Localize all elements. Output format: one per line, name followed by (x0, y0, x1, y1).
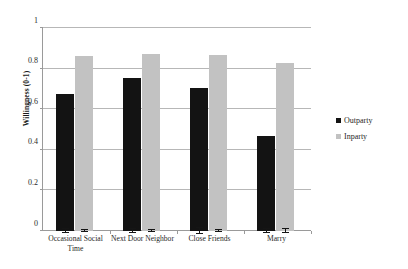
legend-item[interactable]: Inparty (336, 132, 406, 141)
x-category-label: Marry (243, 234, 310, 244)
y-tick-label: 0.6 (28, 96, 38, 105)
y-tick-label: 0.2 (28, 177, 38, 186)
bar-outparty (190, 88, 208, 231)
bar-outparty (257, 136, 275, 231)
bars-layer (43, 28, 311, 231)
x-tick-mark (311, 231, 312, 234)
bar-inparty (276, 63, 294, 231)
error-bar-cap-top (196, 227, 203, 228)
bar-outparty (56, 94, 74, 231)
y-tick-label: 0 (34, 218, 38, 227)
error-bar-cap-bottom (282, 232, 289, 233)
chart-legend: OutpartyInparty (336, 116, 406, 148)
error-bar-cap-bottom (215, 231, 222, 232)
y-tick-label: 0.8 (28, 56, 38, 65)
error-bar-cap-top (62, 228, 69, 229)
y-tick-label: 0.4 (28, 137, 38, 146)
legend-swatch-icon (336, 118, 341, 123)
x-category-label: Next Door Neighbor (109, 234, 176, 244)
legend-swatch-icon (336, 134, 341, 139)
error-bar-cap-top (263, 228, 270, 229)
error-bar-cap-top (129, 228, 136, 229)
bar-group (56, 28, 93, 231)
legend-label: Inparty (344, 132, 367, 141)
x-category-label: Close Friends (176, 234, 243, 244)
bar-outparty (123, 78, 141, 231)
bar-inparty (75, 56, 93, 231)
bar-group (190, 28, 227, 231)
error-bar-cap-bottom (129, 232, 136, 233)
bar-inparty (209, 55, 227, 231)
y-tick-label: 1 (34, 15, 38, 24)
error-bar-cap-top (81, 229, 88, 230)
error-bar-cap-top (215, 229, 222, 230)
bar-group (257, 28, 294, 231)
bar-group (123, 28, 160, 231)
legend-label: Outparty (344, 116, 372, 125)
plot-area: 00.20.40.60.81 (42, 28, 311, 231)
x-category-label: Occasional Social Time (42, 234, 109, 254)
bar-chart: Willingness (0-1) 00.20.40.60.81 Occasio… (0, 0, 408, 269)
error-bar-cap-bottom (81, 231, 88, 232)
error-bar-cap-bottom (148, 231, 155, 232)
bar-inparty (142, 54, 160, 231)
error-bar-cap-top (148, 229, 155, 230)
legend-item[interactable]: Outparty (336, 116, 406, 125)
error-bar-cap-top (282, 228, 289, 229)
x-axis-category-labels: Occasional Social TimeNext Door Neighbor… (42, 234, 310, 266)
